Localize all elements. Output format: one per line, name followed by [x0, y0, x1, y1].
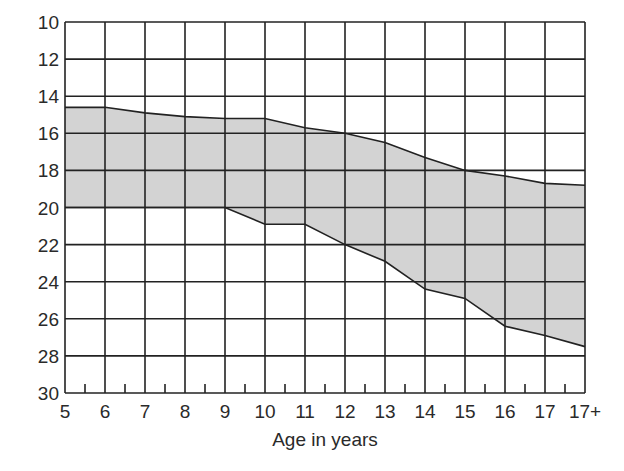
x-tick-label: 7 — [140, 401, 151, 422]
y-tick-label: 18 — [38, 160, 59, 181]
x-tick-label: 10 — [254, 401, 275, 422]
x-tick-label: 17+ — [569, 401, 601, 422]
x-tick-label: 5 — [60, 401, 71, 422]
y-tick-label: 28 — [38, 346, 59, 367]
x-axis-tick-labels: 56789101112131415161717+ — [60, 401, 601, 422]
x-tick-label: 9 — [220, 401, 231, 422]
x-tick-label: 13 — [374, 401, 395, 422]
range-band-chart: 1012141618202224262830 56789101112131415… — [0, 0, 624, 471]
x-minor-ticks — [85, 384, 565, 393]
y-tick-label: 16 — [38, 123, 59, 144]
x-tick-label: 11 — [295, 401, 315, 422]
x-tick-label: 12 — [334, 401, 355, 422]
x-tick-label: 6 — [100, 401, 111, 422]
y-tick-label: 14 — [38, 86, 60, 107]
x-tick-label: 17 — [534, 401, 555, 422]
x-axis-title: Age in years — [272, 429, 378, 450]
x-tick-label: 14 — [414, 401, 436, 422]
x-tick-label: 8 — [180, 401, 191, 422]
y-tick-label: 30 — [38, 383, 59, 404]
range-band-area — [65, 107, 585, 346]
y-tick-label: 20 — [38, 198, 59, 219]
y-tick-label: 22 — [38, 235, 59, 256]
y-tick-label: 26 — [38, 309, 59, 330]
y-axis-tick-labels: 1012141618202224262830 — [38, 12, 60, 404]
shaded-range-band — [65, 107, 585, 346]
x-tick-label: 16 — [494, 401, 515, 422]
y-tick-label: 10 — [38, 12, 59, 33]
x-tick-label: 15 — [454, 401, 475, 422]
y-tick-label: 12 — [38, 49, 59, 70]
y-tick-label: 24 — [38, 272, 60, 293]
